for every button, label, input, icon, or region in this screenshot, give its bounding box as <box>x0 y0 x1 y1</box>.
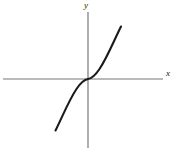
plot-canvas <box>0 0 177 155</box>
y-axis-label: y <box>84 1 88 10</box>
x-axis-label: x <box>166 69 170 78</box>
cubic-function-graph-figure: y x <box>0 0 177 155</box>
